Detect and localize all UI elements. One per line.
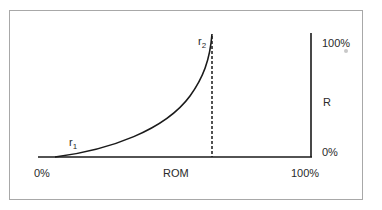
decorative-dot [344,49,348,53]
x-tick-end: 100% [291,167,319,179]
x-axis-label: ROM [163,167,189,179]
curve-line [55,34,212,157]
r2-subscript: 2 [202,41,206,50]
r1-subscript: 1 [73,142,77,151]
y-tick-top: 100% [322,37,350,49]
y-axis-label: R [323,96,331,108]
x-tick-start: 0% [34,167,50,179]
point-label-r1: r1 [69,136,77,150]
point-label-r2: r2 [198,35,206,49]
y-tick-bottom: 0% [322,146,338,158]
